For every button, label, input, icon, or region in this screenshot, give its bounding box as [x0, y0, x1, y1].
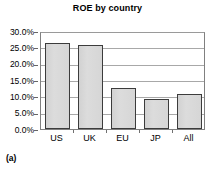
- y-tick-label: 5.0%: [15, 109, 34, 118]
- bar-series: [41, 33, 204, 129]
- y-tick-label: 25.0%: [10, 44, 34, 53]
- y-tick-label: 20.0%: [10, 60, 34, 69]
- x-tick-label: All: [172, 133, 205, 143]
- y-tick-mark: [34, 65, 38, 66]
- x-tick-label: UK: [73, 133, 106, 143]
- y-tick-label: 30.0%: [10, 28, 34, 37]
- chart-title: ROE by country: [0, 3, 215, 14]
- y-tick-mark: [34, 48, 38, 49]
- y-tick-label: 15.0%: [10, 77, 34, 86]
- plot-area: [40, 32, 205, 130]
- x-tick-label: JP: [139, 133, 172, 143]
- x-tick-mark: [106, 130, 107, 133]
- y-tick-mark: [34, 130, 38, 131]
- bar: [177, 94, 202, 129]
- x-tick-mark: [172, 130, 173, 133]
- y-tick-mark: [34, 32, 38, 33]
- figure-panel: ROE by country 0.0%5.0%10.0%15.0%20.0%25…: [0, 0, 215, 171]
- y-axis: 0.0%5.0%10.0%15.0%20.0%25.0%30.0%: [0, 32, 38, 130]
- y-tick-mark: [34, 114, 38, 115]
- figure-caption: (a): [6, 153, 16, 163]
- bar: [45, 43, 70, 129]
- bar: [78, 45, 103, 129]
- x-tick-label: US: [40, 133, 73, 143]
- x-tick-mark: [73, 130, 74, 133]
- x-axis: USUKEUJPAll: [40, 133, 205, 147]
- bar: [144, 99, 169, 129]
- y-tick-mark: [34, 81, 38, 82]
- y-tick-mark: [34, 97, 38, 98]
- y-tick-label: 10.0%: [10, 93, 34, 102]
- x-tick-label: EU: [106, 133, 139, 143]
- y-tick-label: 0.0%: [15, 126, 34, 135]
- x-tick-mark: [139, 130, 140, 133]
- bar: [111, 88, 136, 129]
